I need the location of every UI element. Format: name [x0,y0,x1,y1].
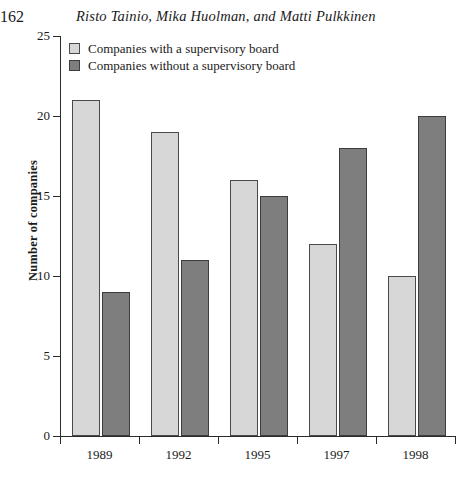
y-axis-tick-label: 20 [10,108,50,124]
bar [388,276,416,436]
legend-item-with-board: Companies with a supervisory board [69,42,295,55]
y-axis-tick [53,36,60,37]
legend-item-without-board: Companies without a supervisory board [69,59,295,72]
legend-swatch-icon-dark [69,60,80,71]
bar [181,260,209,436]
x-axis-tick [376,437,377,444]
y-axis-tick [53,116,60,117]
y-axis-tick-label: 0 [10,428,50,444]
y-axis-tick [53,356,60,357]
bar [72,100,100,436]
y-axis-tick [53,196,60,197]
bar [260,196,288,436]
x-axis-tick-label: 1989 [65,447,135,463]
bar [339,148,367,436]
x-axis-line [60,436,456,437]
bar [230,180,258,436]
running-head: Risto Tainio, Mika Huolman, and Matti Pu… [76,8,376,25]
y-axis-tick-label: 10 [10,268,50,284]
bar [151,132,179,436]
legend-label-without-board: Companies without a supervisory board [88,59,295,72]
x-axis-tick-label: 1992 [144,447,214,463]
x-axis-tick-label: 1998 [381,447,451,463]
bar [418,116,446,436]
plot-area [60,36,455,436]
legend-swatch-icon-light [69,43,80,54]
x-axis-tick-label: 1995 [223,447,293,463]
page-header: 162 Risto Tainio, Mika Huolman, and Matt… [0,8,461,30]
x-axis-tick [60,437,61,444]
bar [309,244,337,436]
chart-legend: Companies with a supervisory board Compa… [69,42,295,76]
legend-label-with-board: Companies with a supervisory board [88,42,279,55]
x-axis-tick-label: 1997 [302,447,372,463]
y-axis-title: Number of companies [26,126,41,316]
y-axis-tick-label: 15 [10,188,50,204]
x-axis-tick [218,437,219,444]
y-axis-tick-label: 5 [10,348,50,364]
y-axis-tick [53,436,60,437]
y-axis-tick [53,276,60,277]
x-axis-tick [297,437,298,444]
bar-chart-figure: Number of companies 0510152025 198919921… [0,28,461,477]
x-axis-tick [455,437,456,444]
y-axis-tick-label: 25 [10,28,50,44]
bar [102,292,130,436]
x-axis-tick [139,437,140,444]
